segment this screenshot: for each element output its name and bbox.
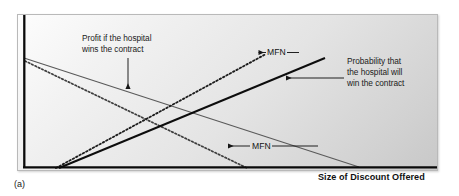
- annotation-mfn-bottom-label: MFN: [252, 142, 271, 151]
- annotation-profit-line2: wins the contract: [82, 44, 151, 55]
- annotation-profit-line1: Profit if the hospital: [82, 33, 151, 44]
- annotation-probability-line2: the hospital will: [347, 67, 404, 78]
- annotation-probability-line1: Probability that: [347, 56, 404, 67]
- annotation-probability-label: Probability that the hospital will win t…: [347, 56, 404, 90]
- figure-caption: (a): [14, 179, 25, 189]
- figure-panel-a: Profit if the hospital wins the contract…: [0, 0, 459, 196]
- x-axis-label: Size of Discount Offered: [318, 172, 425, 182]
- annotation-profit-label: Profit if the hospital wins the contract: [82, 33, 151, 55]
- chart-lines-overlay: [0, 0, 459, 196]
- annotation-mfn-top-label: MFN: [267, 48, 286, 57]
- line-probability-mfn-dotted: [56, 54, 266, 168]
- line-probability-solid: [59, 58, 325, 168]
- annotation-probability-line3: win the contract: [347, 78, 404, 89]
- line-profit-mfn-dotted: [25, 61, 247, 168]
